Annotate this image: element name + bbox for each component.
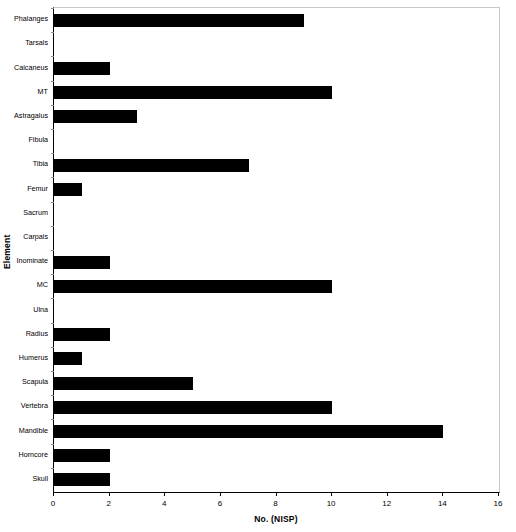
y-axis-tick-label: Humerus bbox=[19, 353, 48, 363]
y-axis-tick bbox=[51, 274, 54, 275]
x-axis-tick bbox=[276, 492, 277, 496]
y-axis-tick bbox=[51, 32, 54, 33]
y-axis-tick bbox=[51, 323, 54, 324]
x-axis-tick bbox=[53, 492, 54, 496]
y-axis-tick-label: Femur bbox=[27, 184, 48, 194]
plot-frame bbox=[53, 7, 500, 493]
y-axis-tick-label: Tarsals bbox=[25, 38, 48, 48]
x-axis-tick bbox=[109, 492, 110, 496]
x-axis-tick-label: 14 bbox=[427, 499, 457, 508]
bar bbox=[54, 86, 332, 99]
x-axis-title: No. (NISP) bbox=[53, 514, 499, 524]
y-axis-tick-label: Tibia bbox=[33, 159, 48, 169]
bar bbox=[54, 62, 110, 75]
y-axis-tick bbox=[51, 202, 54, 203]
y-axis-tick bbox=[51, 250, 54, 251]
y-axis-tick bbox=[51, 177, 54, 178]
bar bbox=[54, 352, 82, 365]
x-axis-tick-label: 6 bbox=[205, 499, 235, 508]
x-axis-tick bbox=[498, 492, 499, 496]
x-axis-tick bbox=[387, 492, 388, 496]
bar bbox=[54, 256, 110, 269]
x-axis-tick-label: 16 bbox=[483, 499, 513, 508]
bar bbox=[54, 473, 110, 486]
y-axis-tick-label: Phalanges bbox=[14, 14, 48, 24]
bar bbox=[54, 110, 137, 123]
y-axis-tick-label: Horncore bbox=[18, 450, 48, 460]
bar bbox=[54, 449, 110, 462]
y-axis-tick-label: Calcaneus bbox=[14, 63, 48, 73]
plot-area bbox=[54, 8, 499, 492]
y-axis-tick bbox=[51, 129, 54, 130]
x-axis-tick bbox=[164, 492, 165, 496]
y-axis-tick-label: Skull bbox=[32, 474, 48, 484]
y-axis-tick-label: Inominate bbox=[16, 256, 48, 266]
y-axis-tick bbox=[51, 8, 54, 9]
x-axis-tick-label: 10 bbox=[316, 499, 346, 508]
x-axis-tick bbox=[442, 492, 443, 496]
y-axis-tick-label: MT bbox=[38, 87, 48, 97]
y-axis-tick-label: Scapula bbox=[22, 377, 48, 387]
y-axis-tick bbox=[51, 347, 54, 348]
y-axis-tick-label: Sacrum bbox=[23, 208, 48, 218]
y-axis-tick-label: Vertebra bbox=[21, 401, 48, 411]
y-axis-tick bbox=[51, 444, 54, 445]
y-axis-tick bbox=[51, 419, 54, 420]
y-axis-tick bbox=[51, 395, 54, 396]
x-axis-ticks: 0246810121416 bbox=[53, 492, 499, 532]
x-axis-tick-label: 4 bbox=[149, 499, 179, 508]
y-axis-tick bbox=[51, 298, 54, 299]
y-axis-tick-labels: PhalangesTarsalsCalcaneusMTAstragalusFib… bbox=[10, 7, 52, 491]
y-axis-tick-label: Radius bbox=[26, 329, 48, 339]
y-axis-tick bbox=[51, 468, 54, 469]
bar bbox=[54, 183, 82, 196]
bar bbox=[54, 401, 332, 414]
y-axis-tick bbox=[51, 105, 54, 106]
x-axis-tick-label: 12 bbox=[372, 499, 402, 508]
x-axis-tick-label: 8 bbox=[261, 499, 291, 508]
bar bbox=[54, 328, 110, 341]
bar-chart: Element PhalangesTarsalsCalcaneusMTAstra… bbox=[0, 0, 516, 532]
x-axis-tick bbox=[331, 492, 332, 496]
y-axis-tick-label: Carpals bbox=[23, 232, 48, 242]
y-axis-tick-label: Astragalus bbox=[14, 111, 48, 121]
x-axis-tick bbox=[220, 492, 221, 496]
y-axis-tick-label: Fibula bbox=[28, 135, 48, 145]
x-axis-tick-label: 2 bbox=[94, 499, 124, 508]
bar bbox=[54, 280, 332, 293]
x-axis-tick-label: 0 bbox=[38, 499, 68, 508]
y-axis-tick bbox=[51, 81, 54, 82]
bar bbox=[54, 159, 249, 172]
y-axis-tick-label: MC bbox=[37, 280, 48, 290]
y-axis-tick-label: Ulna bbox=[33, 305, 48, 315]
y-axis-tick-label: Mandible bbox=[19, 426, 48, 436]
bar bbox=[54, 425, 443, 438]
y-axis-tick bbox=[51, 56, 54, 57]
y-axis-tick bbox=[51, 226, 54, 227]
y-axis-tick bbox=[51, 371, 54, 372]
bar bbox=[54, 14, 304, 27]
bar bbox=[54, 377, 193, 390]
y-axis-tick bbox=[51, 153, 54, 154]
